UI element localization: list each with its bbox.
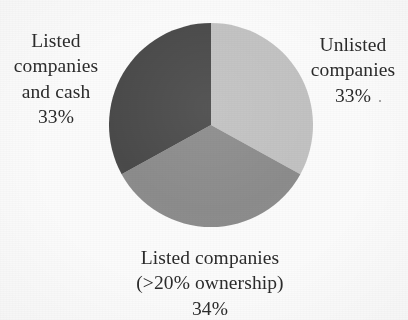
slice-label-listed-companies-and-cash: Listed companies and cash 33% xyxy=(2,28,110,129)
label-line-2: (>20% ownership) xyxy=(96,270,324,295)
label-value-percent: 33% xyxy=(2,104,110,129)
slice-label-listed-companies-over-20-ownership: Listed companies (>20% ownership) 34% xyxy=(96,245,324,320)
slice-label-unlisted-companies: Unlisted companies 33% xyxy=(300,32,406,108)
label-line-1: Listed xyxy=(2,28,110,53)
scan-speck-artifact xyxy=(379,100,381,102)
label-line-1: Unlisted xyxy=(300,32,406,57)
label-value-percent: 33% xyxy=(300,83,406,108)
label-line-2: companies xyxy=(2,53,110,78)
label-value-percent: 34% xyxy=(96,296,324,320)
pie-shading-overlay xyxy=(109,23,313,227)
label-line-2: companies xyxy=(300,57,406,82)
pie-chart-graphic xyxy=(109,23,313,227)
pie-chart-figure: Listed companies and cash 33% Unlisted c… xyxy=(0,0,408,320)
label-line-1: Listed companies xyxy=(96,245,324,270)
pie-svg xyxy=(109,23,313,227)
label-line-3: and cash xyxy=(2,79,110,104)
